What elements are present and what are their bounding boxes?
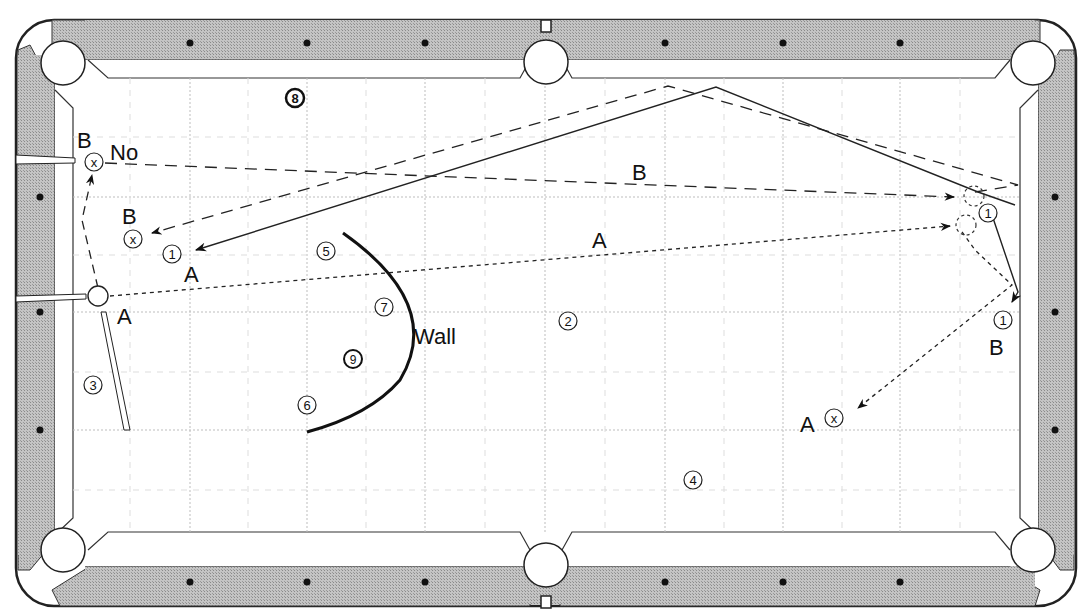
svg-text:2: 2 [564,314,571,329]
svg-text:1: 1 [984,206,991,221]
ball-3: 3 [84,376,102,394]
svg-text:4: 4 [689,473,696,488]
ball-7: 7 [375,298,393,316]
ball-6: 6 [298,396,316,414]
x-marker-no: x [85,153,103,171]
ball-1-right-top: 1 [979,204,997,222]
pocket-bottom-right [1011,528,1055,572]
svg-text:9: 9 [350,353,357,367]
pocket-top-right [1011,41,1055,85]
pocket-bottom-middle [524,543,568,587]
pocket-top-left [41,41,85,85]
pocket-top-middle [524,40,568,84]
label-no: No [110,140,138,165]
pocket-bottom-left [41,528,85,572]
x-marker-b: x [124,230,142,248]
label-wall: Wall [414,324,456,349]
label-target-a-right: A [800,412,815,437]
ball-1-right-bottom: 1 [994,311,1012,329]
label-object-b-right: B [989,335,1004,360]
label-cue-b: B [77,128,92,153]
svg-text:x: x [130,232,137,247]
label-object-a-left: A [184,262,199,287]
label-path-b: B [632,160,647,185]
label-cue-a: A [117,304,132,329]
x-marker-a: x [825,409,843,427]
svg-text:6: 6 [303,398,310,413]
svg-text:8: 8 [291,91,298,106]
ball-9: 9 [344,350,362,368]
svg-text:3: 3 [89,378,96,393]
svg-text:x: x [91,155,98,170]
label-ghost-b-left: B [122,204,137,229]
ball-2: 2 [559,312,577,330]
ball-1-left: 1 [163,245,181,263]
svg-text:1: 1 [999,313,1006,328]
ball-4: 4 [684,471,702,489]
ball-5: 5 [317,242,335,260]
table-frame [16,20,1076,606]
svg-text:7: 7 [380,300,387,315]
ball-8: 8 [286,89,304,107]
svg-text:x: x [831,411,838,426]
cue-ball-a [88,286,108,306]
svg-text:1: 1 [168,247,175,262]
svg-text:5: 5 [322,244,329,259]
pool-table-diagram: 1 2 3 4 5 6 7 8 9 1 1 x x x B No B A A B… [0,0,1092,616]
label-path-a: A [592,228,607,253]
